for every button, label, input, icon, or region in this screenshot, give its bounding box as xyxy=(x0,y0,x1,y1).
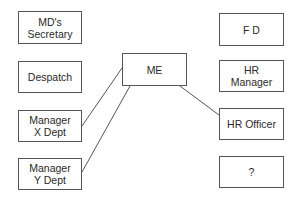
link-me-hr-officer xyxy=(180,86,219,115)
link-me-manager-x xyxy=(82,68,122,126)
node-hr-manager: HR Manager xyxy=(219,60,284,92)
node-me: ME xyxy=(122,53,187,86)
node-despatch: Despatch xyxy=(18,61,82,93)
node-mds-secretary: MD's Secretary xyxy=(18,11,82,44)
node-unknown: ? xyxy=(219,156,284,188)
node-hr-officer: HR Officer xyxy=(219,108,284,140)
node-manager-x-dept: Manager X Dept xyxy=(18,110,82,142)
node-fd: F D xyxy=(219,13,284,46)
node-manager-y-dept: Manager Y Dept xyxy=(18,158,82,190)
link-me-manager-y xyxy=(82,86,130,172)
